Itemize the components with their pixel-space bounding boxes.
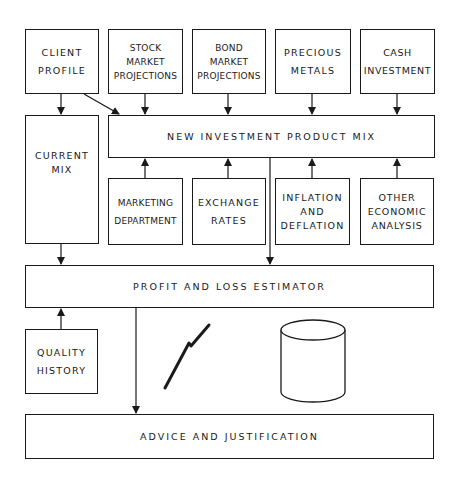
new-investment-product-mix-label: NEW INVESTMENT PRODUCT MIX <box>167 131 376 142</box>
client-profile-label: CLIENT PROFILE <box>38 44 86 80</box>
advice-and-justification-label: ADVICE AND JUSTIFICATION <box>140 431 319 442</box>
cash-investment-box: CASH INVESTMENT <box>360 29 435 94</box>
precious-metals-label: PRECIOUS METALS <box>284 44 342 80</box>
stock-market-projections-box: STOCK MARKET PROJECTIONS <box>108 29 183 94</box>
profit-and-loss-estimator-box: PROFIT AND LOSS ESTIMATOR <box>25 265 434 308</box>
lightning-bolt-icon <box>165 325 209 388</box>
inflation-and-deflation-box: INFLATION AND DEFLATION <box>275 178 350 245</box>
stock-market-projections-label: STOCK MARKET PROJECTIONS <box>114 41 177 83</box>
current-mix-box: CURRENT MIX <box>25 115 99 244</box>
precious-metals-box: PRECIOUS METALS <box>275 29 351 94</box>
exchange-rates-box: EXCHANGE RATES <box>192 178 266 245</box>
bond-market-projections-box: BOND MARKET PROJECTIONS <box>192 29 266 94</box>
marketing-department-box: MARKETING DEPARTMENT <box>108 178 183 245</box>
diagram-canvas: CLIENT PROFILE STOCK MARKET PROJECTIONS … <box>0 0 455 487</box>
new-investment-product-mix-box: NEW INVESTMENT PRODUCT MIX <box>108 115 435 158</box>
quality-history-box: QUALITY HISTORY <box>25 329 98 394</box>
cash-investment-label: CASH INVESTMENT <box>364 44 431 80</box>
current-mix-label: CURRENT MIX <box>35 149 89 177</box>
database-cylinder-icon <box>281 320 345 402</box>
other-economic-analysis-label: OTHER ECONOMIC ANALYSIS <box>368 191 427 233</box>
bond-market-projections-label: BOND MARKET PROJECTIONS <box>197 41 260 83</box>
exchange-rates-label: EXCHANGE RATES <box>198 194 260 230</box>
arrow-client-to-newmix <box>84 94 119 114</box>
client-profile-box: CLIENT PROFILE <box>25 29 99 94</box>
profit-and-loss-estimator-label: PROFIT AND LOSS ESTIMATOR <box>133 281 326 292</box>
marketing-department-label: MARKETING DEPARTMENT <box>114 194 176 230</box>
advice-and-justification-box: ADVICE AND JUSTIFICATION <box>25 414 434 459</box>
quality-history-label: QUALITY HISTORY <box>37 344 86 380</box>
other-economic-analysis-box: OTHER ECONOMIC ANALYSIS <box>360 178 434 245</box>
inflation-and-deflation-label: INFLATION AND DEFLATION <box>280 191 344 233</box>
